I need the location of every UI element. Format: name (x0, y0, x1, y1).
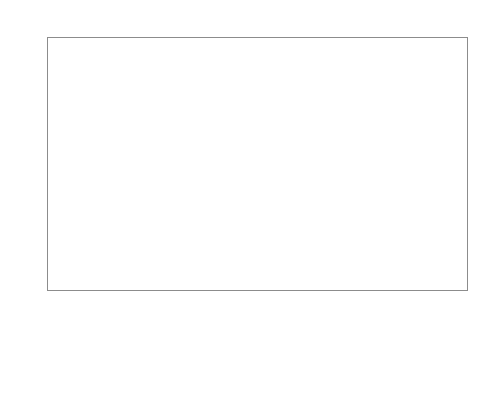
bar-chart (0, 0, 488, 397)
bars-layer (47, 37, 468, 291)
